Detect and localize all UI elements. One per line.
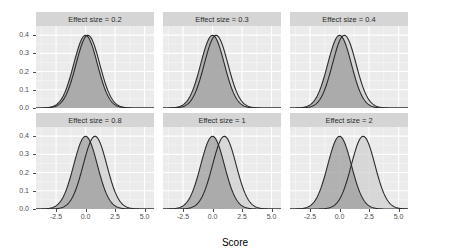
facet-strip-label: Effect size = 2: [290, 113, 408, 127]
x-tick-mark: [242, 209, 243, 212]
x-tick-label: 2.5: [104, 213, 126, 220]
x-tick-mark: [115, 209, 116, 212]
x-tick-label: 0.0: [75, 213, 97, 220]
x-tick-mark: [399, 209, 400, 212]
panel-plot-area: [36, 127, 154, 209]
x-axis-title: Score: [0, 237, 470, 248]
y-tick-label: 0.0: [5, 104, 29, 111]
facet-panel: Effect size = 2: [290, 113, 408, 209]
facet-panel: Effect size = 0.4: [290, 12, 408, 108]
x-tick-label: -2.5: [45, 213, 67, 220]
panel-plot-area: [163, 26, 281, 108]
x-tick-label: -2.5: [172, 213, 194, 220]
x-tick-label: 5.0: [388, 213, 410, 220]
y-tick-mark: [33, 209, 36, 210]
x-tick-mark: [340, 209, 341, 212]
y-tick-label: 0.3: [5, 49, 29, 56]
x-tick-label: 0.0: [329, 213, 351, 220]
panel-plot-area: [163, 127, 281, 209]
x-tick-label: 0.0: [202, 213, 224, 220]
x-tick-mark: [272, 209, 273, 212]
x-tick-mark: [183, 209, 184, 212]
x-tick-label: -2.5: [299, 213, 321, 220]
panel-plot-area: [36, 26, 154, 108]
x-tick-mark: [213, 209, 214, 212]
facet-strip-label: Effect size = 0.2: [36, 12, 154, 26]
facet-strip-text: Effect size = 2: [325, 116, 372, 125]
panel-plot-area: [290, 127, 408, 209]
y-tick-label: 0.2: [5, 68, 29, 75]
y-tick-label: 0.4: [5, 31, 29, 38]
facet-strip-label: Effect size = 0.4: [290, 12, 408, 26]
facet-panel: Effect size = 0.2: [36, 12, 154, 108]
facet-strip-label: Effect size = 1: [163, 113, 281, 127]
facet-strip-text: Effect size = 0.4: [322, 15, 375, 24]
x-tick-mark: [145, 209, 146, 212]
facet-panel: Effect size = 1: [163, 113, 281, 209]
y-tick-label: 0.1: [5, 86, 29, 93]
facet-strip-text: Effect size = 0.2: [68, 15, 121, 24]
x-tick-mark: [86, 209, 87, 212]
facet-strip-label: Effect size = 0.8: [36, 113, 154, 127]
x-tick-label: 5.0: [261, 213, 283, 220]
x-tick-mark: [56, 209, 57, 212]
y-tick-label: 0.0: [5, 205, 29, 212]
y-tick-label: 0.3: [5, 150, 29, 157]
facet-strip-text: Effect size = 0.3: [195, 15, 248, 24]
y-tick-label: 0.1: [5, 187, 29, 194]
facet-strip-text: Effect size = 1: [198, 116, 245, 125]
facet-panel: Effect size = 0.3: [163, 12, 281, 108]
facet-strip-text: Effect size = 0.8: [68, 116, 121, 125]
x-tick-mark: [369, 209, 370, 212]
y-tick-label: 0.2: [5, 169, 29, 176]
density-facet-chart: density Score 0.00.10.20.30.4-2.50.02.55…: [0, 0, 470, 250]
y-tick-label: 0.4: [5, 132, 29, 139]
x-tick-mark: [310, 209, 311, 212]
facet-strip-label: Effect size = 0.3: [163, 12, 281, 26]
panel-plot-area: [290, 26, 408, 108]
x-tick-label: 5.0: [134, 213, 156, 220]
facet-panel: Effect size = 0.8: [36, 113, 154, 209]
x-tick-label: 2.5: [231, 213, 253, 220]
x-tick-label: 2.5: [358, 213, 380, 220]
y-tick-mark: [33, 108, 36, 109]
